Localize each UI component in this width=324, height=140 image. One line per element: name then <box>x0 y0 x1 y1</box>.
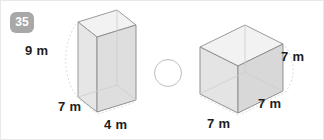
left-prism-front-face <box>97 25 136 112</box>
right-cube-depth-label: 7 m <box>258 96 281 111</box>
left-prism-height-guide <box>66 24 78 98</box>
right-cube-height-label: 7 m <box>281 49 304 64</box>
left-prism-width-label: 4 m <box>104 117 127 132</box>
left-prism-height-label: 9 m <box>25 43 48 58</box>
comparison-circle[interactable] <box>154 59 182 87</box>
worksheet-problem-canvas: 35 <box>0 0 324 140</box>
left-prism-depth-label: 7 m <box>58 99 81 114</box>
right-cube-width-label: 7 m <box>207 116 230 131</box>
